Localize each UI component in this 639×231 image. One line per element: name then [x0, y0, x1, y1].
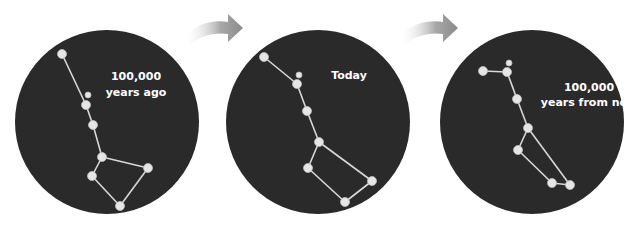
star-icon: [514, 146, 523, 155]
arrow-past-to-present: [187, 14, 243, 44]
star-icon: [260, 53, 269, 62]
curved-arrow-icon: [187, 14, 243, 44]
night-sky-disc: [226, 30, 410, 214]
star-icon: [315, 138, 324, 147]
big-dipper-diagram: 100,000years ago Today 100,000years from…: [0, 0, 639, 231]
panel-label: Today: [331, 69, 367, 82]
panel-label: 100,000: [564, 81, 614, 94]
night-sky-disc: [15, 30, 199, 214]
curved-arrow-icon: [402, 14, 458, 44]
star-icon: [116, 202, 125, 211]
night-sky-disc: [440, 30, 624, 214]
star-icon: [296, 72, 302, 78]
star-icon: [368, 177, 377, 186]
star-icon: [513, 95, 522, 104]
panel-label: years ago: [106, 86, 167, 99]
star-icon: [293, 80, 302, 89]
star-icon: [503, 68, 512, 77]
panel-label: years from now: [541, 96, 637, 109]
star-icon: [548, 179, 557, 188]
star-icon: [303, 107, 312, 116]
panel-100000-years-from-now: 100,000years from now: [440, 30, 637, 214]
star-icon: [82, 101, 91, 110]
arrow-present-to-future: [402, 14, 458, 44]
star-icon: [85, 92, 91, 98]
star-icon: [479, 67, 488, 76]
star-icon: [89, 121, 98, 130]
star-icon: [566, 181, 575, 190]
star-icon: [98, 153, 107, 162]
panel-today: Today: [226, 30, 410, 214]
star-icon: [341, 198, 350, 207]
star-icon: [304, 164, 313, 173]
star-icon: [524, 124, 533, 133]
panel-label: 100,000: [111, 70, 161, 83]
panel-100000-years-ago: 100,000years ago: [15, 30, 199, 214]
star-icon: [506, 60, 512, 66]
star-icon: [58, 50, 67, 59]
star-icon: [144, 164, 153, 173]
star-icon: [88, 172, 97, 181]
